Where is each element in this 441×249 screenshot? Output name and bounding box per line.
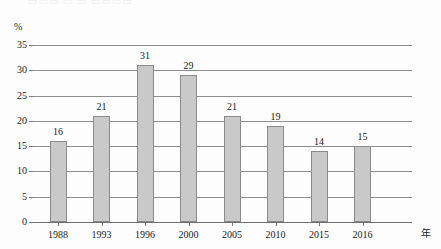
x-axis-tick-label: 2016 [343, 229, 383, 240]
bar[interactable] [354, 146, 371, 222]
bar[interactable] [137, 65, 154, 222]
x-axis-tick-mark [58, 223, 59, 226]
bar[interactable] [311, 151, 328, 222]
y-axis-tick-mark [29, 197, 33, 198]
x-axis-tick-label: 2015 [299, 229, 339, 240]
y-axis-tick-label: 20 [5, 116, 27, 126]
bar-value-label: 19 [261, 112, 291, 122]
y-axis-tick-mark [29, 146, 33, 147]
bar-value-label: 15 [348, 132, 378, 142]
y-axis-tick-label: 5 [5, 192, 27, 202]
x-axis-tick-mark [276, 223, 277, 226]
x-axis-tick-label: 2010 [256, 229, 296, 240]
bar[interactable] [267, 126, 284, 222]
y-axis-unit-label: % [14, 22, 22, 32]
gridline [33, 70, 412, 71]
y-axis-tick-label: 0 [5, 217, 27, 227]
y-axis-tick-label: 25 [5, 91, 27, 101]
x-axis-tick-mark [319, 223, 320, 226]
y-axis-tick-label: 30 [5, 65, 27, 75]
bar[interactable] [50, 141, 67, 222]
gridline [33, 45, 412, 46]
x-axis-tick-label: 2000 [169, 229, 209, 240]
bar[interactable] [180, 75, 197, 222]
x-axis-tick-mark [363, 223, 364, 226]
bar-value-label: 14 [304, 137, 334, 147]
x-axis-tick-mark [145, 223, 146, 226]
bar-value-label: 16 [43, 127, 73, 137]
y-axis-tick-mark [29, 45, 33, 46]
bar[interactable] [224, 116, 241, 222]
y-axis-tick-labels: 05101520253035 [3, 45, 27, 222]
x-axis-tick-label: 2005 [212, 229, 252, 240]
y-axis-tick-mark [29, 121, 33, 122]
bar-value-label: 29 [174, 61, 204, 71]
bar-chart: % 05101520253035 年 161988211993311996292… [0, 0, 441, 249]
bar-value-label: 21 [217, 102, 247, 112]
y-axis-tick-mark [29, 222, 33, 223]
x-axis-tick-mark [232, 223, 233, 226]
gridline [33, 121, 412, 122]
y-axis-tick-label: 10 [5, 166, 27, 176]
x-axis-baseline [33, 222, 412, 223]
x-axis-tick-mark [189, 223, 190, 226]
x-axis-label: 年 [421, 228, 431, 239]
y-axis-tick-label: 15 [5, 141, 27, 151]
y-axis-tick-mark [29, 96, 33, 97]
x-axis-tick-label: 1996 [125, 229, 165, 240]
x-axis-tick-mark [102, 223, 103, 226]
bar-value-label: 21 [87, 102, 117, 112]
x-axis-tick-label: 1988 [38, 229, 78, 240]
gridline [33, 96, 412, 97]
bar-value-label: 31 [130, 51, 160, 61]
bar[interactable] [93, 116, 110, 222]
y-axis-tick-mark [29, 171, 33, 172]
x-axis-tick-label: 1993 [82, 229, 122, 240]
y-axis-tick-label: 35 [5, 40, 27, 50]
y-axis-tick-mark [29, 70, 33, 71]
